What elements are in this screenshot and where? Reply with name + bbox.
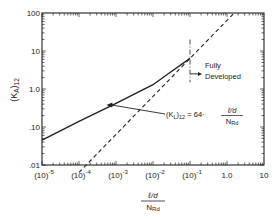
fully-developed-label-line2: Developed <box>205 72 241 81</box>
x-tick-label: (10)-2 <box>145 169 165 180</box>
x-tick-label: (10)-1 <box>182 169 202 180</box>
arrowhead-icon <box>198 72 202 76</box>
plot-axes <box>42 13 264 165</box>
x-tick-label: 1.0 <box>221 171 233 180</box>
log-log-chart: .01.101.010100 (10)-5(10)-4(10)-3(10)-2(… <box>0 0 275 219</box>
equation-denominator: NRd <box>226 117 238 126</box>
developing-flow-curve <box>42 58 190 140</box>
y-tick-label: 1.0 <box>29 85 41 94</box>
y-tick-label: .10 <box>29 123 41 132</box>
x-tick-label: (10)-3 <box>108 169 128 180</box>
equation-pointer <box>111 105 165 114</box>
x-tick-labels: (10)-5(10)-4(10)-3(10)-2(10)-11.010 <box>34 169 269 180</box>
y-tick-labels: .01.101.010100 <box>27 9 41 170</box>
svg-text:(KA)12: (KA)12 <box>9 78 20 102</box>
axis-ticks <box>42 13 264 165</box>
data-series <box>42 13 234 172</box>
kl-equation: (KL)12 = 64· <box>166 110 205 120</box>
x-axis-label: ℓ/d NRd <box>141 191 165 212</box>
x-tick-label: 10 <box>260 171 269 180</box>
svg-text:NRd: NRd <box>146 203 159 212</box>
fully-developed-label: Fully <box>205 61 221 70</box>
x-tick-label: (10)-5 <box>34 169 54 180</box>
y-tick-label: 100 <box>27 9 41 18</box>
annotations: FullyDeveloped(KL)12 = 64·ℓ/dNRd <box>106 40 243 126</box>
svg-text:ℓ/d: ℓ/d <box>147 191 158 200</box>
plot-frame <box>42 13 264 165</box>
y-axis-label: (KA)12 <box>9 78 20 102</box>
fully-developed-line <box>79 13 234 172</box>
y-tick-label: .01 <box>29 161 41 170</box>
equation-numerator: ℓ/d <box>227 106 238 115</box>
y-tick-label: 10 <box>31 47 40 56</box>
